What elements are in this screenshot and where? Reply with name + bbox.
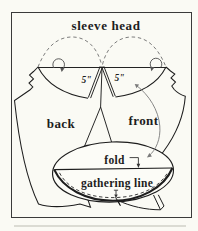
sleeve-head-diagram: sleeve head 5" 5" back front fold gather… <box>0 0 198 231</box>
scan-artifact-line <box>14 225 186 227</box>
slash-line-right <box>102 66 116 97</box>
gathering-line-label: gathering line <box>81 178 153 190</box>
sleeve-head-dashed-arc-right <box>103 37 167 67</box>
sleeve-head-dashed-arc-left <box>38 37 102 67</box>
rotate-arrow-left-icon <box>53 59 65 72</box>
fold-label: fold <box>104 155 124 167</box>
measurement-right-label: 5" <box>114 74 124 84</box>
measurement-left-label: 5" <box>81 76 91 86</box>
diagram-linework <box>0 0 198 231</box>
sleeve-head-ellipse <box>51 140 174 204</box>
back-piece-label: back <box>47 117 75 130</box>
sleeve-head-label: sleeve head <box>71 19 140 32</box>
front-piece-outline <box>158 67 186 159</box>
rotate-arrow-right-icon <box>150 58 162 71</box>
front-piece-label: front <box>129 113 159 126</box>
